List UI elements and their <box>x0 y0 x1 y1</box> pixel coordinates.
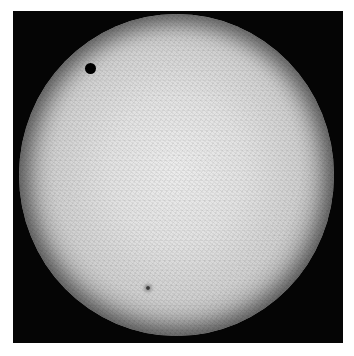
photo-frame <box>13 11 343 343</box>
transiting-planet-dot <box>85 63 96 74</box>
sun-disk <box>19 14 334 336</box>
figure-caption <box>13 349 343 356</box>
sunspot <box>146 286 150 290</box>
limb-darkening <box>19 14 334 336</box>
